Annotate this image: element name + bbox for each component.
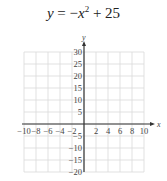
x-tick-label: −4 <box>55 126 65 136</box>
x-tick-label: 2 <box>94 126 98 136</box>
x-tick-label: −8 <box>31 126 40 136</box>
y-tick-label: 5 <box>78 107 82 117</box>
x-tick-label: 6 <box>118 126 122 136</box>
y-axis-label: y <box>81 33 86 42</box>
y-tick-label: 15 <box>74 83 83 93</box>
x-axis-arrow-icon <box>150 122 155 126</box>
y-tick-label: −5 <box>73 131 82 141</box>
x-axis-label: x <box>156 120 161 129</box>
coordinate-grid: xy−10−8−6−4−2246810−20−15−10−55101520253… <box>0 0 167 181</box>
x-tick-label: 4 <box>106 126 111 136</box>
y-tick-label: −15 <box>69 155 82 165</box>
x-tick-label: 8 <box>130 126 134 136</box>
y-tick-label: 10 <box>74 95 83 105</box>
y-tick-label: 20 <box>74 71 83 81</box>
x-tick-label: −6 <box>43 126 52 136</box>
y-tick-label: −10 <box>69 143 82 153</box>
y-tick-label: 25 <box>74 59 83 69</box>
y-tick-label: 30 <box>74 47 83 57</box>
x-tick-label: −10 <box>17 126 30 136</box>
x-tick-label: 10 <box>140 126 149 136</box>
y-tick-label: −20 <box>69 167 82 177</box>
